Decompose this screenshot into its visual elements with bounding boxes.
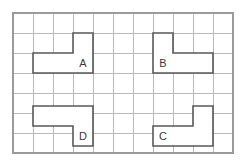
puzzle-canvas: ABCD — [0, 0, 248, 165]
puzzle-piece-c[interactable]: C — [153, 106, 213, 146]
piece-label-a: A — [79, 57, 87, 69]
puzzle-pieces: ABCD — [33, 33, 213, 146]
puzzle-piece-b[interactable]: B — [153, 33, 213, 73]
polyomino-puzzle-figure: ABCD — [0, 0, 248, 165]
piece-label-b: B — [159, 57, 166, 69]
piece-label-c: C — [159, 130, 167, 142]
puzzle-piece-d[interactable]: D — [33, 106, 93, 146]
puzzle-piece-a[interactable]: A — [33, 33, 93, 73]
piece-label-d: D — [79, 130, 87, 142]
